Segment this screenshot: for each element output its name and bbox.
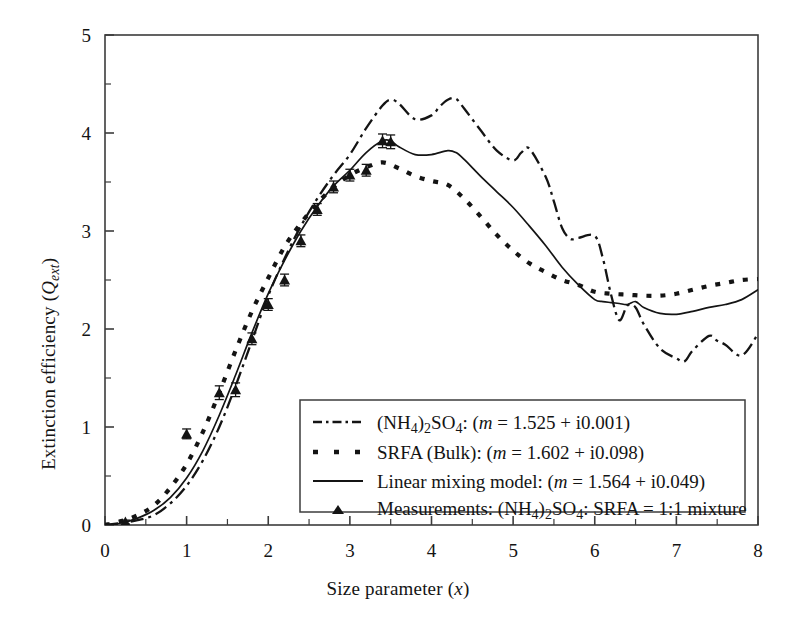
- x-tick-label: 6: [590, 540, 600, 561]
- legend-t1-sub3: 4: [455, 421, 462, 436]
- legend-t4-sub1: 4: [532, 507, 539, 522]
- x-tick-label: 7: [672, 540, 682, 561]
- legend-label-measurements: Measurements: (NH4)2SO4: SRFA = 1:1 mixt…: [377, 498, 747, 522]
- legend-t1-var: m: [479, 412, 493, 433]
- y-axis-title-main: Extinction efficiency (: [38, 295, 59, 470]
- y-tick-label: 0: [82, 515, 92, 536]
- legend-t1-tail: = 1.525 + i0.001): [493, 412, 631, 434]
- x-axis-title-main: Size parameter (: [327, 578, 455, 599]
- x-tick-label: 5: [508, 540, 518, 561]
- legend-t2-var: m: [493, 442, 507, 463]
- figure-container: Extinction efficiency (Qext) Size parame…: [0, 0, 796, 628]
- y-tick-label: 1: [82, 417, 92, 438]
- legend-t1-sub2: 2: [424, 421, 431, 436]
- legend-t4-mid2: SO: [552, 498, 576, 519]
- x-tick-label: 0: [100, 540, 110, 561]
- legend-t1-mid2: SO: [431, 412, 455, 433]
- y-axis-title: Extinction efficiency (Qext): [38, 258, 63, 470]
- measurement-point: [385, 135, 396, 149]
- legend-t4-sub3: 4: [576, 507, 583, 522]
- x-tick-label: 8: [753, 540, 763, 561]
- y-tick-label: 3: [82, 221, 92, 242]
- y-axis-title-subscript: ext: [47, 264, 62, 281]
- triangle-marker-icon: [181, 428, 192, 438]
- triangle-marker-icon: [279, 275, 290, 285]
- y-tick-label: 2: [82, 319, 92, 340]
- triangle-marker-icon: [385, 136, 396, 146]
- x-tick-label: 3: [345, 540, 355, 561]
- measurement-point: [181, 428, 192, 438]
- measurement-point: [246, 333, 257, 345]
- measurement-point: [344, 169, 355, 181]
- measurement-point: [279, 274, 290, 286]
- legend-t1-sub1: 4: [411, 421, 418, 436]
- x-axis-title-var: x: [454, 578, 463, 599]
- legend-t4-sub2: 2: [545, 507, 552, 522]
- legend-t4-post: : SRFA = 1:1 mixture: [583, 498, 746, 519]
- legend: (NH4)2SO4: (m = 1.525 + i0.001) SRFA (Bu…: [300, 400, 747, 522]
- legend-t3-tail: = 1.564 + i0.049): [568, 471, 706, 493]
- legend-t2-tail: = 1.602 + i0.098): [507, 442, 645, 464]
- legend-label-srfa-bulk: SRFA (Bulk): (m = 1.602 + i0.098): [377, 442, 644, 464]
- y-tick-label: 4: [82, 123, 92, 144]
- x-axis-title-tail: ): [463, 578, 470, 599]
- triangle-marker-icon: [214, 387, 225, 397]
- legend-t2-pre: SRFA (Bulk): (: [377, 442, 493, 464]
- y-axis-title-tail: ): [38, 258, 59, 265]
- plot-area: 012345678012345 (NH4)2SO4: (m = 1.525 + …: [0, 0, 796, 628]
- measurement-point: [214, 386, 225, 400]
- legend-t1-post: : (: [462, 412, 478, 434]
- y-axis-title-var: Q: [38, 281, 59, 295]
- triangle-marker-icon: [246, 333, 257, 343]
- legend-entry-measurements[interactable]: Measurements: (NH4)2SO4: SRFA = 1:1 mixt…: [332, 498, 747, 522]
- legend-t3-var: m: [554, 471, 568, 492]
- x-axis-title: Size parameter (x): [0, 578, 796, 600]
- legend-label-linear-mixing-model: Linear mixing model: (m = 1.564 + i0.049…: [377, 471, 705, 493]
- x-tick-label: 1: [182, 540, 192, 561]
- legend-t4-pre: Measurements: (NH: [377, 498, 532, 520]
- y-tick-label: 5: [82, 25, 92, 46]
- x-tick-label: 2: [264, 540, 274, 561]
- legend-t3-pre: Linear mixing model: (: [377, 471, 554, 493]
- legend-t1-pre: (NH: [377, 412, 411, 434]
- x-tick-label: 4: [427, 540, 437, 561]
